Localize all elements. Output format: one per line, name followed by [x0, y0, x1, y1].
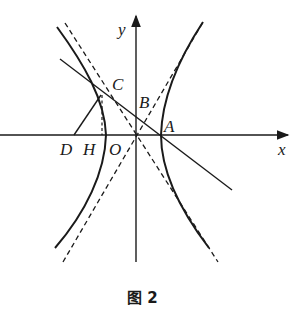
label-A: A — [163, 117, 175, 136]
label-x: x — [277, 140, 286, 159]
segment-DC — [74, 95, 101, 135]
label-B: B — [139, 93, 150, 112]
label-y: y — [116, 20, 126, 39]
line-through-C-B-A — [60, 59, 232, 190]
figure-caption: 图 2 — [127, 289, 158, 307]
label-H: H — [82, 140, 97, 159]
label-C: C — [112, 75, 124, 94]
label-D: D — [59, 140, 73, 159]
label-O: O — [109, 140, 121, 159]
figure: y x C B A D H O 图 2 — [0, 0, 302, 313]
hyperbola-diagram: y x C B A D H O 图 2 — [0, 0, 302, 313]
